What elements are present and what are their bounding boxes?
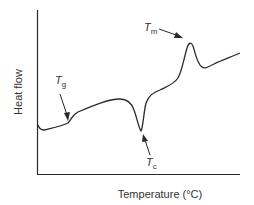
tc-arrowhead-icon [142,134,148,142]
tg-arrowhead-icon [64,112,70,121]
y-axis-label: Heat flow [12,69,24,115]
x-axis-label: Temperature (°C) [118,188,202,200]
tc-arrow [145,140,150,155]
tc-label: Tc [146,156,157,171]
tg-label: Tg [55,74,66,89]
tm-arrowhead-icon [174,32,183,38]
tm-label: Tm [144,21,158,36]
dsc-chart: Tg Tc Tm Temperature (°C) Heat flow [0,0,254,205]
tm-arrow [159,29,176,35]
tg-arrow [60,94,67,115]
